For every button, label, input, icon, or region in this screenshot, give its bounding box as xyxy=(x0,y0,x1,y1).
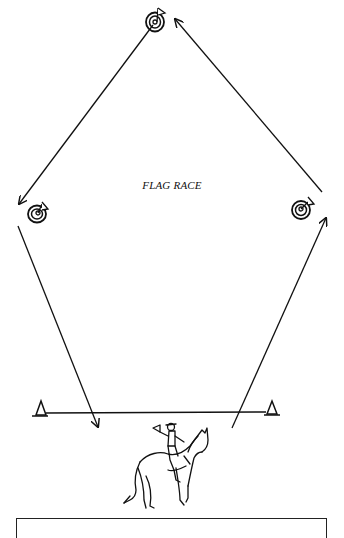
horse-and-rider-icon xyxy=(124,424,208,509)
cone-right-icon xyxy=(264,401,280,415)
start-finish-line xyxy=(46,412,266,413)
path-start-to-right xyxy=(232,218,326,428)
cone-left-icon xyxy=(32,401,48,416)
diagram-title: FLAG RACE xyxy=(0,179,344,191)
flag-barrel-right-icon xyxy=(292,197,314,219)
caption-box xyxy=(16,518,327,538)
path-left-to-finish xyxy=(18,226,98,427)
path-right-to-top xyxy=(175,19,322,192)
path-top-to-left xyxy=(19,25,153,204)
flag-barrel-left-icon xyxy=(28,202,48,223)
flag-barrel-top-icon xyxy=(146,8,165,32)
